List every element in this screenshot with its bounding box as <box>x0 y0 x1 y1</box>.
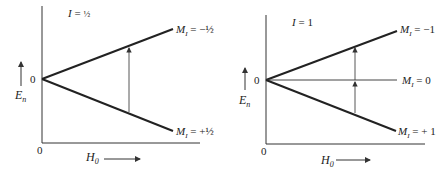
zeeman-diagram: 0 0 I = ½ En H0 MI = −½ MI = +½ 0 0 <box>0 0 445 178</box>
panel-right: 0 0 I = 1 En H0 MI = −1 MI = 0 MI = + 1 <box>238 15 436 169</box>
x-axis-label: H0 <box>320 153 334 169</box>
level-up <box>42 29 173 79</box>
level-down <box>42 79 173 131</box>
level-label-up: MI = −1 <box>399 23 435 38</box>
spin-label: I = ½ <box>67 7 90 19</box>
origin-x-label: 0 <box>37 144 43 156</box>
panel-left: 0 0 I = ½ En H0 MI = −½ MI = +½ <box>14 6 214 166</box>
origin-y-label: 0 <box>254 74 260 86</box>
level-label-up: MI = −½ <box>175 23 214 38</box>
origin-x-label: 0 <box>261 145 267 157</box>
level-up <box>266 31 397 80</box>
origin-y-label: 0 <box>30 73 36 85</box>
level-label-down: MI = +½ <box>175 125 214 140</box>
level-label-flat: MI = 0 <box>401 74 431 89</box>
y-axis-label: En <box>14 88 26 104</box>
level-label-down: MI = + 1 <box>397 125 436 140</box>
x-axis-label: H0 <box>85 150 99 166</box>
level-down <box>266 80 396 131</box>
spin-label: I = 1 <box>291 16 313 28</box>
y-axis-label: En <box>238 93 250 109</box>
